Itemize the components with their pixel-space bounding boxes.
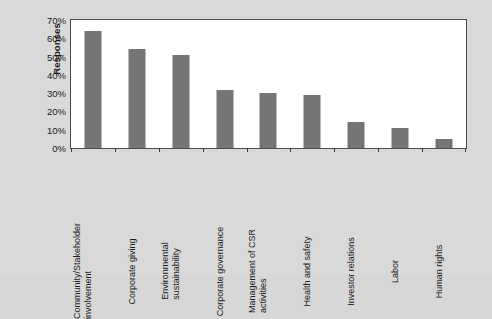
x-axis-label-line: Corporate governance xyxy=(214,226,224,316)
bar-slot xyxy=(290,20,334,148)
y-axis-tick-label: 70% xyxy=(34,15,66,26)
x-axis-category-label: Health and safety xyxy=(302,236,313,306)
bar[interactable] xyxy=(304,95,321,148)
x-axis-label-line: Corporate giving xyxy=(126,238,136,304)
x-axis-label-line: Labor xyxy=(390,259,400,282)
x-axis-category-label: Investor relations xyxy=(346,237,357,306)
x-axis-label-line: Management of CSR xyxy=(247,229,257,313)
x-axis-label-line: involvement xyxy=(82,223,93,319)
x-axis-label-slot: Environmentalsustainability xyxy=(159,153,203,271)
x-axis-label-line: activities xyxy=(258,229,269,313)
x-axis-category-labels: Community/StakeholderinvolvementCorporat… xyxy=(71,153,466,271)
bar-slot xyxy=(71,20,115,148)
bar[interactable] xyxy=(84,31,101,148)
x-axis-tick-mark xyxy=(247,148,248,152)
x-axis-label-slot: Labor xyxy=(378,153,422,271)
x-axis-label-slot: Community/Stakeholderinvolvement xyxy=(71,153,115,271)
y-axis-tick-label: 60% xyxy=(34,33,66,44)
bar[interactable] xyxy=(436,139,453,148)
x-axis-label-slot: Corporate governance xyxy=(203,153,247,271)
x-axis-label-line: sustainability xyxy=(170,242,181,300)
x-axis-tick-mark xyxy=(378,148,379,152)
bar[interactable] xyxy=(172,55,189,148)
y-axis-tick-label: 50% xyxy=(34,51,66,62)
bar[interactable] xyxy=(348,122,365,148)
bar[interactable] xyxy=(216,90,233,149)
bar-slot xyxy=(378,20,422,148)
x-axis-label-slot: Investor relations xyxy=(334,153,378,271)
bar[interactable] xyxy=(392,128,409,148)
bar[interactable] xyxy=(260,93,277,148)
x-axis-category-label: Management of CSRactivities xyxy=(247,229,268,313)
x-axis-label-line: Community/Stakeholder xyxy=(72,223,82,319)
x-axis-label-slot: Health and safety xyxy=(290,153,334,271)
y-axis-tick-label: 10% xyxy=(34,124,66,135)
x-axis-category-label: Corporate giving xyxy=(126,238,137,304)
x-axis-label-slot: Management of CSRactivities xyxy=(247,153,291,271)
y-axis-tick-label: 20% xyxy=(34,106,66,117)
x-axis-tick-mark xyxy=(203,148,204,152)
x-axis-category-label: Environmentalsustainability xyxy=(160,242,181,300)
bar-slot xyxy=(159,20,203,148)
y-axis-tick-label: 30% xyxy=(34,88,66,99)
x-axis-label-slot: Human rights xyxy=(422,153,466,271)
bars-layer xyxy=(71,20,466,148)
x-axis-label-line: Human rights xyxy=(434,244,444,298)
x-axis-label-slot: Corporate giving xyxy=(115,153,159,271)
x-axis-tick-mark xyxy=(422,148,423,152)
x-axis-category-label: Corporate governance xyxy=(214,226,225,316)
x-axis-tick-mark xyxy=(465,148,466,152)
y-axis-tick-label: 0% xyxy=(34,143,66,154)
x-axis-tick-mark xyxy=(115,148,116,152)
bar-slot xyxy=(247,20,291,148)
x-axis-category-label: Human rights xyxy=(434,244,445,298)
x-axis-tick-mark xyxy=(334,148,335,152)
x-axis-label-line: Health and safety xyxy=(302,236,312,306)
y-axis-tick-label: 40% xyxy=(34,69,66,80)
x-axis-label-line: Investor relations xyxy=(346,237,356,306)
x-axis-category-label: Community/Stakeholderinvolvement xyxy=(72,223,93,319)
bar-slot xyxy=(422,20,466,148)
x-axis-tick-mark xyxy=(290,148,291,152)
y-axis-tick-labels: 0%10%20%30%40%50%60%70% xyxy=(34,19,66,149)
x-axis-tick-mark xyxy=(159,148,160,152)
bar-slot xyxy=(203,20,247,148)
x-axis-tick-mark xyxy=(71,148,72,152)
bar-slot xyxy=(334,20,378,148)
bar[interactable] xyxy=(128,49,145,148)
x-axis-label-line: Environmental xyxy=(160,242,170,300)
x-axis-category-label: Labor xyxy=(390,259,401,282)
bar-slot xyxy=(115,20,159,148)
